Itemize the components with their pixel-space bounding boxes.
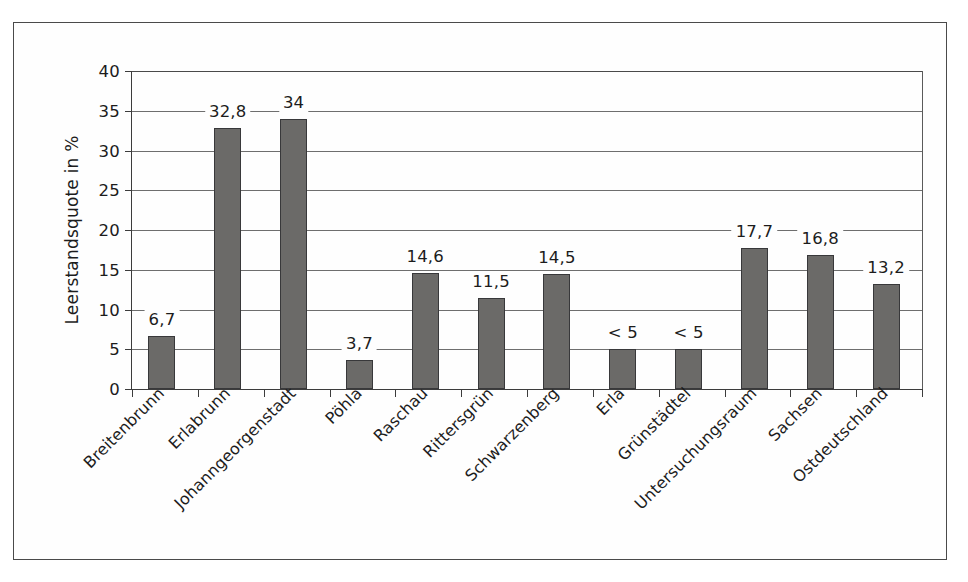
bar xyxy=(675,349,702,389)
bar-chart: Leerstandsquote in % 0510152025303540 6,… xyxy=(14,23,948,561)
bar xyxy=(280,119,307,389)
x-tick-mark xyxy=(461,389,462,397)
x-tick-mark xyxy=(132,389,133,397)
bar-value-label: < 5 xyxy=(669,323,707,342)
y-tick-mark xyxy=(125,389,132,390)
x-category-label-text: Erlabrunn xyxy=(164,384,233,453)
y-tick-mark xyxy=(125,270,132,271)
x-category-label-text: Untersuchungsraum xyxy=(631,384,761,514)
y-tick-label: 0 xyxy=(109,380,120,399)
y-tick-mark xyxy=(125,349,132,350)
bar-value-label: 13,2 xyxy=(863,258,909,277)
bar xyxy=(873,284,900,389)
y-tick-label: 15 xyxy=(99,260,120,279)
bar xyxy=(478,298,505,389)
bar-value-label: 6,7 xyxy=(144,310,179,329)
bar xyxy=(543,274,570,389)
bar-value-label: 14,5 xyxy=(534,248,580,267)
x-tick-mark xyxy=(856,389,857,397)
x-tick-mark xyxy=(922,389,923,397)
bar-value-label: 16,8 xyxy=(797,229,843,248)
bar xyxy=(214,128,241,389)
bar xyxy=(741,248,768,389)
bar xyxy=(148,336,175,389)
plot-area: 0510152025303540 6,732,8343,714,611,514,… xyxy=(131,71,923,389)
y-tick-mark xyxy=(125,151,132,152)
x-category-label-text: Pöhla xyxy=(321,384,365,428)
y-tick-label: 5 xyxy=(109,340,120,359)
x-tick-mark xyxy=(659,389,660,397)
x-tick-mark xyxy=(330,389,331,397)
x-category-label-text: Johanngeorgenstadt xyxy=(170,384,299,513)
y-tick-label: 35 xyxy=(99,101,120,120)
x-tick-mark xyxy=(198,389,199,397)
y-tick-mark xyxy=(125,190,132,191)
x-tick-mark xyxy=(395,389,396,397)
bar-value-label: 3,7 xyxy=(342,334,377,353)
bar xyxy=(807,255,834,389)
x-tick-mark xyxy=(527,389,528,397)
bar-value-label: < 5 xyxy=(604,323,642,342)
gridline xyxy=(132,349,922,350)
x-category-label-text: Sachsen xyxy=(765,384,826,445)
gridline xyxy=(132,190,922,191)
x-tick-mark xyxy=(264,389,265,397)
gridline xyxy=(132,71,922,72)
bar-value-label: 11,5 xyxy=(468,272,514,291)
x-category-label-text: Raschau xyxy=(369,384,431,446)
y-tick-mark xyxy=(125,111,132,112)
bar-value-label: 32,8 xyxy=(205,102,251,121)
y-tick-label: 30 xyxy=(99,141,120,160)
y-axis-title: Leerstandsquote in % xyxy=(58,71,84,389)
y-tick-mark xyxy=(125,230,132,231)
bar-value-label: 17,7 xyxy=(732,222,778,241)
y-tick-label: 20 xyxy=(99,221,120,240)
chart-frame: Leerstandsquote in % 0510152025303540 6,… xyxy=(13,22,947,560)
x-tick-mark xyxy=(725,389,726,397)
x-tick-mark xyxy=(790,389,791,397)
bar-value-label: 34 xyxy=(279,93,308,112)
gridline xyxy=(132,270,922,271)
gridline xyxy=(132,151,922,152)
y-tick-label: 40 xyxy=(99,62,120,81)
bar xyxy=(609,349,636,389)
y-tick-mark xyxy=(125,310,132,311)
y-tick-label: 25 xyxy=(99,181,120,200)
gridline xyxy=(132,310,922,311)
bar-value-label: 14,6 xyxy=(402,247,448,266)
bar xyxy=(412,273,439,389)
x-tick-mark xyxy=(593,389,594,397)
y-tick-label: 10 xyxy=(99,300,120,319)
x-category-label-text: Breitenbrunn xyxy=(79,384,167,472)
y-axis-title-text: Leerstandsquote in % xyxy=(61,136,81,325)
y-tick-mark xyxy=(125,71,132,72)
